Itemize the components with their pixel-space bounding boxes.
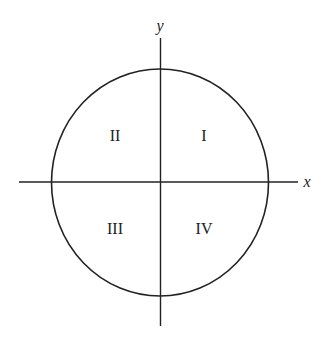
y-axis-label: y	[154, 17, 164, 35]
quadrant-label-i: I	[201, 127, 206, 144]
quadrant-label-ii: II	[110, 127, 121, 144]
quadrant-label-iv: IV	[196, 220, 213, 237]
x-axis-label: x	[302, 173, 310, 190]
quadrant-diagram: y x I II III IV	[0, 0, 327, 346]
quadrant-label-iii: III	[107, 220, 123, 237]
